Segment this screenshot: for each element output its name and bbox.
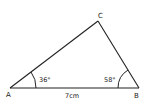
angle-label-b: 58° <box>104 76 116 84</box>
side-ac <box>10 21 98 88</box>
vertex-label-c: C <box>98 12 103 20</box>
vertex-label-b: B <box>134 92 139 100</box>
angle-label-a: 36° <box>39 76 51 84</box>
side-label-ab: 7cm <box>65 92 79 100</box>
triangle-diagram: A B C 36° 58° 7cm <box>0 0 149 110</box>
angle-arc-b <box>118 70 128 88</box>
vertex-label-a: A <box>6 91 11 99</box>
angle-arc-a <box>31 72 36 88</box>
